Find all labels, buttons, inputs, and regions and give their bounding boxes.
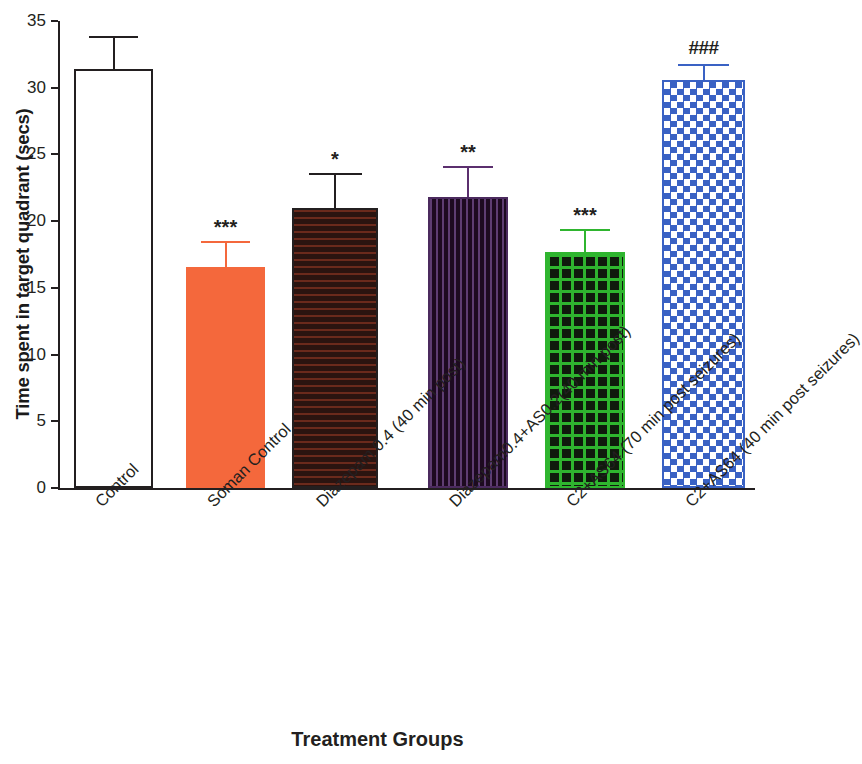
y-axis-tick-label: 35 [6, 12, 46, 29]
y-axis-tick-label: 10 [6, 346, 46, 363]
y-axis-tick [51, 220, 58, 222]
y-axis-tick-label: 5 [6, 412, 46, 429]
y-axis-tick [51, 87, 58, 89]
bar [428, 197, 508, 488]
y-axis-tick-label: 0 [6, 479, 46, 496]
y-axis-tick-label: 20 [6, 212, 46, 229]
significance-marker: *** [181, 217, 271, 237]
y-axis-tick-label: 30 [6, 79, 46, 96]
error-bar-cap [201, 241, 250, 243]
x-axis-title: Treatment Groups [0, 728, 755, 751]
significance-marker: ### [659, 38, 749, 58]
y-axis-tick [51, 420, 58, 422]
significance-marker: *** [540, 205, 630, 225]
bar [74, 69, 153, 488]
significance-marker: ** [423, 142, 513, 162]
error-bar-cap [443, 166, 493, 168]
error-bar-cap [309, 173, 362, 175]
error-bar-stem [467, 166, 469, 197]
error-bar-stem [113, 36, 115, 69]
error-bar-stem [225, 241, 227, 266]
error-bar-cap [678, 64, 729, 66]
y-axis-tick-label: 25 [6, 145, 46, 162]
y-axis-tick [51, 153, 58, 155]
y-axis-tick [51, 20, 58, 22]
error-bar-stem [334, 173, 336, 208]
error-bar-stem [703, 64, 705, 80]
bar [662, 80, 745, 488]
x-axis-line [58, 488, 755, 490]
y-axis-tick [51, 487, 58, 489]
significance-marker: * [290, 149, 380, 169]
y-axis-tick [51, 354, 58, 356]
y-axis-line [58, 21, 60, 490]
error-bar-cap [89, 36, 138, 38]
y-axis-tick-label: 15 [6, 279, 46, 296]
error-bar-cap [560, 229, 610, 231]
y-axis-tick [51, 287, 58, 289]
error-bar-stem [584, 229, 586, 252]
